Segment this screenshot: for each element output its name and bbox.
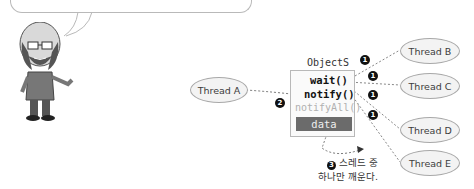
thread-e-label: Thread E (409, 158, 451, 169)
data-field: data (296, 117, 352, 131)
thread-d-label: Thread D (408, 125, 452, 136)
thread-a-label: Thread A (198, 85, 241, 96)
data-label: data (311, 118, 336, 130)
caption-text-1: 스레드 중 (339, 157, 378, 168)
step-1-marker-b: 1 (360, 55, 370, 65)
thread-d-node: Thread D (400, 117, 460, 143)
thread-b-label: Thread B (409, 46, 452, 57)
thread-e-node: Thread E (400, 150, 460, 176)
step-3-marker: 3 (327, 161, 336, 170)
cartoon-character-illustration (10, 22, 80, 122)
object-title: ObjectS (307, 57, 349, 68)
thread-b-node: Thread B (400, 38, 460, 64)
thread-a-node: Thread A (190, 77, 248, 103)
thread-c-node: Thread C (400, 73, 460, 99)
step-1-marker-d: 1 (368, 90, 378, 100)
caption-text-2: 하나만 깨운다. (318, 170, 378, 183)
step-1-marker-c: 1 (368, 71, 378, 81)
step-3-caption: 3 스레드 중 하나만 깨운다. (318, 156, 378, 183)
thread-c-label: Thread C (409, 81, 452, 92)
caption-line-1: 3 스레드 중 (318, 156, 378, 170)
method-notifyall: notifyAll() (295, 102, 361, 113)
method-wait: wait() (310, 74, 348, 86)
step-1-marker-e: 1 (368, 110, 378, 120)
method-notify: notify() (304, 88, 355, 100)
step-2-marker: 2 (275, 98, 285, 108)
